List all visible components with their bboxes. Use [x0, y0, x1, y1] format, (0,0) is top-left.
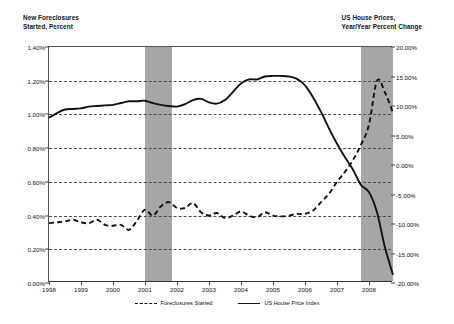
- legend-swatch-solid: [238, 303, 260, 304]
- x-tick-label: 1999: [74, 286, 88, 293]
- right-tick-label: -10.00%: [396, 221, 419, 228]
- left-tick-label: 1.40%: [27, 44, 45, 51]
- legend-item: Foreclosures Started: [135, 300, 213, 306]
- legend-label: Foreclosures Started: [161, 300, 213, 306]
- left-tick-label: 0.20%: [27, 246, 45, 253]
- plot-area: 0.00%0.20%0.40%0.60%0.80%1.00%1.20%1.40%…: [48, 46, 392, 282]
- x-tick-label: 2000: [106, 286, 120, 293]
- right-tick-label: 15.00%: [396, 73, 417, 80]
- left-axis-title: New Foreclosures Started, Percent: [23, 13, 79, 31]
- foreclosures-house-prices-chart: New Foreclosures Started, Percent US Hou…: [0, 0, 454, 324]
- right-tick-label: 10.00%: [396, 103, 417, 110]
- x-tick-label: 2006: [298, 286, 312, 293]
- legend-swatch-dashed: [135, 303, 157, 304]
- x-tick-label: 2003: [202, 286, 216, 293]
- x-tick-label: 2008: [362, 286, 376, 293]
- left-tick-label: 1.20%: [27, 77, 45, 84]
- legend-item: US House Price Index: [238, 300, 319, 306]
- x-tick-label: 2004: [234, 286, 248, 293]
- right-tick-label: -20.00%: [396, 280, 419, 287]
- left-tick-label: 1.00%: [27, 111, 45, 118]
- right-tick-label: 20.00%: [396, 44, 417, 51]
- right-tick-label: -5.00%: [396, 191, 416, 198]
- series-lines: [49, 47, 393, 283]
- x-tick-label: 2001: [138, 286, 152, 293]
- x-tick-label: 1998: [42, 286, 56, 293]
- x-tick-label: 2007: [330, 286, 344, 293]
- right-axis-title: US House Prices, Year/Year Percent Chang…: [342, 13, 422, 31]
- left-tick-label: 0.80%: [27, 145, 45, 152]
- right-tick-label: 5.00%: [396, 132, 414, 139]
- right-tick-label: -15.00%: [396, 250, 419, 257]
- x-tick-label: 2002: [170, 286, 184, 293]
- left-tick-label: 0.60%: [27, 178, 45, 185]
- legend-label: US House Price Index: [264, 300, 319, 306]
- x-tick-label: 2005: [266, 286, 280, 293]
- right-tick-label: 0.00%: [396, 162, 414, 169]
- legend: Foreclosures StartedUS House Price Index: [0, 300, 454, 306]
- left-tick-label: 0.40%: [27, 212, 45, 219]
